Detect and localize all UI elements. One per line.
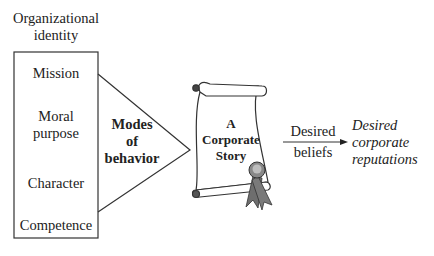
outcome-line: Desired	[352, 117, 434, 134]
modes-line: behavior	[102, 150, 162, 167]
story-line: A	[200, 116, 262, 132]
modes-line: Modes	[102, 116, 162, 133]
title-line: Organizational	[0, 10, 112, 27]
item-moral-purpose: Moral purpose	[14, 108, 98, 142]
arrow-label-top: Desired	[283, 123, 343, 140]
modes-line: of	[102, 133, 162, 150]
item-character: Character	[14, 175, 98, 192]
purpose-line: purpose	[14, 125, 98, 142]
arrow-label-bottom: beliefs	[283, 144, 343, 161]
modes-label: Modes of behavior	[102, 116, 162, 167]
story-line: Story	[200, 148, 262, 164]
outcome-line: corporate	[352, 134, 434, 151]
org-identity-title: Organizational identity	[0, 10, 112, 44]
story-line: Corporate	[200, 132, 262, 148]
item-competence: Competence	[14, 217, 98, 234]
title-line: identity	[0, 27, 112, 44]
outcome-line: reputations	[352, 151, 434, 168]
moral-line: Moral	[14, 108, 98, 125]
outcome-label: Desired corporate reputations	[352, 117, 434, 168]
story-label: A Corporate Story	[200, 116, 262, 164]
item-mission: Mission	[14, 65, 98, 82]
